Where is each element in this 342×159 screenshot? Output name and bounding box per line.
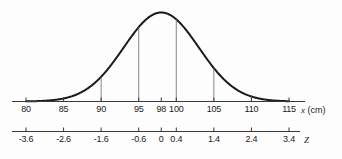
z-axis-tick-label: 3.4 (283, 134, 295, 144)
z-axis-tick-label: 0.4 (170, 134, 182, 144)
normal-distribution-figure: 8085909598100105110115 x (cm) -3.6-2.6-1… (0, 0, 342, 159)
normal-curve (26, 13, 289, 102)
x-axis-tick-label: 105 (207, 104, 221, 114)
z-axis-label: Z (304, 135, 309, 145)
x-axis-tick-label: 100 (169, 104, 183, 114)
z-axis-tick-label: -3.6 (19, 134, 34, 144)
x-axis-tick-label: 80 (21, 104, 31, 114)
x-axis-tick-label: 98 (156, 104, 166, 114)
x-axis-label: x (cm) (301, 105, 326, 115)
z-axis-tick-label: 1.4 (208, 134, 220, 144)
z-axis-tick-label: -1.6 (94, 134, 109, 144)
x-axis-unit: (cm) (308, 105, 326, 115)
z-axis-tick-label: 2.4 (245, 134, 257, 144)
x-axis-tick-label: 115 (282, 104, 296, 114)
z-axis-tick-label: 0 (159, 134, 164, 144)
x-axis-tick-label: 110 (245, 104, 259, 114)
x-axis-tick-label: 85 (59, 104, 69, 114)
drop-lines-group (64, 19, 252, 101)
z-axis-tick-label: -2.6 (56, 134, 71, 144)
z-axis-symbol: Z (304, 135, 309, 145)
z-axis-tick-label: -0.6 (131, 134, 146, 144)
x-axis-tick-label: 95 (134, 104, 144, 114)
x-axis-tick-label: 90 (96, 104, 106, 114)
